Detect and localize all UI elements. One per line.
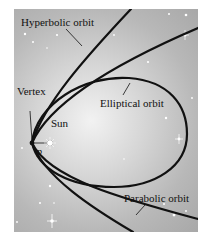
star — [165, 117, 167, 119]
star — [21, 147, 23, 149]
star — [147, 61, 149, 63]
elliptical-leader-line — [123, 83, 130, 95]
hyperbolic-orbit-label: Hyperbolic orbit — [21, 16, 94, 28]
star — [185, 210, 187, 212]
star — [123, 158, 125, 160]
star — [46, 47, 48, 49]
orbit-diagram-panel: Hyperbolic orbit Elliptical orbit Parabo… — [14, 9, 198, 232]
elliptical-orbit-curve — [32, 78, 187, 187]
orbit-diagram: Hyperbolic orbit Elliptical orbit Parabo… — [14, 9, 198, 232]
star — [24, 33, 26, 35]
elliptical-orbit-label: Elliptical orbit — [100, 97, 164, 109]
sun-label: Sun — [51, 117, 69, 129]
sun-icon — [44, 137, 56, 149]
star — [39, 202, 41, 204]
star — [49, 185, 51, 187]
hyperbolic-leader-line — [66, 29, 82, 46]
star — [191, 97, 193, 99]
sparkle-star — [175, 134, 183, 144]
parabolic-orbit-lower-branch — [32, 143, 198, 219]
vertex-label: Vertex — [17, 85, 46, 97]
parabolic-leader-line — [136, 205, 145, 215]
vertex-leader-line — [30, 111, 32, 141]
parabolic-orbit-label: Parabolic orbit — [124, 192, 189, 204]
star — [53, 202, 55, 204]
star — [56, 34, 58, 36]
star — [173, 214, 176, 217]
star — [32, 41, 34, 43]
star — [168, 13, 170, 15]
star — [185, 14, 188, 17]
p-label: p — [36, 146, 42, 157]
hyperbolic-orbit-upper-branch — [32, 9, 131, 143]
sparkle-star — [47, 214, 57, 228]
star — [16, 221, 18, 223]
star — [113, 34, 115, 36]
